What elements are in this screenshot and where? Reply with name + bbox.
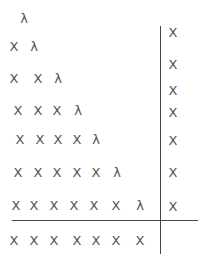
- cross-entry: X: [92, 166, 101, 179]
- cross-entry: X: [112, 234, 121, 247]
- cross-entry: X: [14, 104, 23, 117]
- cross-entry: X: [30, 234, 39, 247]
- cross-entry: X: [10, 40, 19, 53]
- lambda-entry: λ: [92, 133, 100, 146]
- cross-entry: X: [36, 133, 45, 146]
- right-column-cross-entry: X: [169, 200, 178, 213]
- cross-entry: X: [10, 72, 19, 85]
- cross-entry: X: [73, 166, 82, 179]
- cross-entry: X: [10, 234, 19, 247]
- lambda-entry: λ: [74, 104, 82, 117]
- cross-entry: X: [16, 133, 25, 146]
- cross-entry: X: [54, 133, 63, 146]
- cross-entry: X: [53, 166, 62, 179]
- cross-entry: X: [30, 199, 39, 212]
- horizontal-separator-line: [12, 220, 198, 221]
- lambda-entry: λ: [20, 12, 28, 25]
- lambda-entry: λ: [30, 40, 38, 53]
- cross-entry: X: [90, 199, 99, 212]
- cross-entry: X: [136, 234, 145, 247]
- cross-entry: X: [34, 166, 43, 179]
- right-column-cross-entry: X: [169, 26, 178, 39]
- lambda-entry: λ: [113, 166, 121, 179]
- lambda-entry: λ: [54, 72, 62, 85]
- cross-entry: X: [73, 234, 82, 247]
- cross-entry: X: [70, 199, 79, 212]
- cross-entry: X: [34, 104, 43, 117]
- cross-entry: X: [73, 133, 82, 146]
- cross-entry: X: [14, 166, 23, 179]
- right-column-cross-entry: X: [169, 84, 178, 97]
- right-column-cross-entry: X: [169, 106, 178, 119]
- right-column-cross-entry: X: [169, 58, 178, 71]
- right-column-cross-entry: X: [169, 134, 178, 147]
- cross-entry: X: [53, 104, 62, 117]
- cross-entry: X: [50, 234, 59, 247]
- cross-entry: X: [92, 234, 101, 247]
- right-column-cross-entry: X: [169, 166, 178, 179]
- cross-entry: X: [12, 199, 21, 212]
- lambda-entry: λ: [136, 199, 144, 212]
- cross-entry: X: [50, 199, 59, 212]
- cross-entry: X: [34, 72, 43, 85]
- cross-entry: X: [112, 199, 121, 212]
